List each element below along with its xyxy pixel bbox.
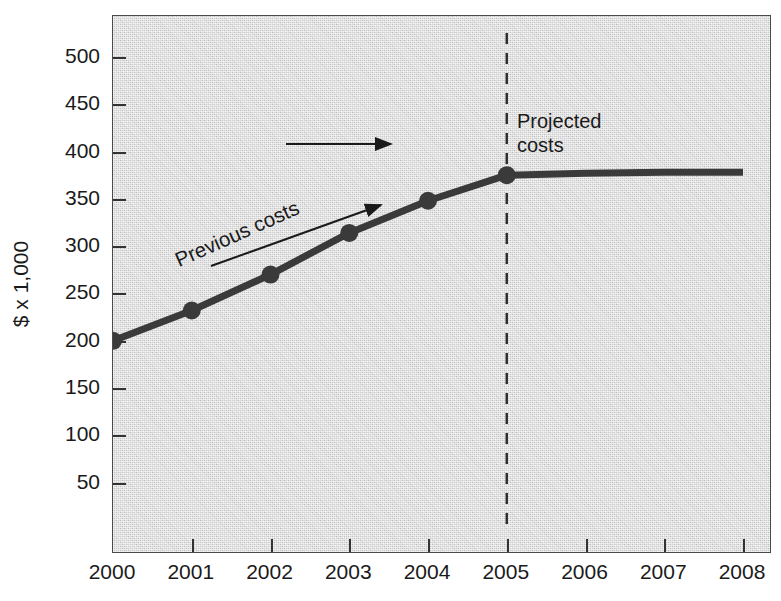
y-tick-label: 500 — [8, 45, 100, 66]
projected-costs-line — [507, 172, 743, 175]
y-tick-label: 200 — [8, 329, 100, 350]
y-tick-label: 450 — [8, 92, 100, 113]
x-tick-label: 2006 — [540, 561, 630, 582]
x-tick-label: 2007 — [618, 561, 708, 582]
chart-canvas — [113, 16, 771, 553]
y-tick-label: 300 — [8, 234, 100, 255]
projected-costs-line1: Projected — [517, 109, 602, 133]
y-tick-label: 250 — [8, 281, 100, 302]
y-tick-label: 350 — [8, 187, 100, 208]
data-point — [262, 266, 280, 284]
x-tick-label: 2005 — [461, 561, 551, 582]
x-tick-label: 2004 — [382, 561, 472, 582]
projected-costs-annotation: Projected costs — [517, 109, 602, 158]
data-point — [183, 301, 201, 319]
plot-area: Previous costs Projected costs — [112, 15, 771, 553]
x-tick-label: 2000 — [67, 561, 157, 582]
projected-costs-line2: costs — [517, 133, 602, 157]
y-tick-label: 400 — [8, 140, 100, 161]
y-tick-label: 50 — [8, 471, 100, 492]
data-point — [419, 192, 437, 210]
previous-costs-line — [113, 175, 507, 341]
y-tick-label: 100 — [8, 423, 100, 444]
cost-projection-chart: $ x 1,000 50100150200250300350400450500 … — [0, 0, 781, 601]
x-tick-label: 2008 — [697, 561, 781, 582]
x-tick-label: 2002 — [225, 561, 315, 582]
data-point — [340, 224, 358, 242]
y-tick-label: 150 — [8, 376, 100, 397]
x-tick-label: 2001 — [146, 561, 236, 582]
data-point — [498, 166, 516, 184]
x-tick-label: 2003 — [303, 561, 393, 582]
